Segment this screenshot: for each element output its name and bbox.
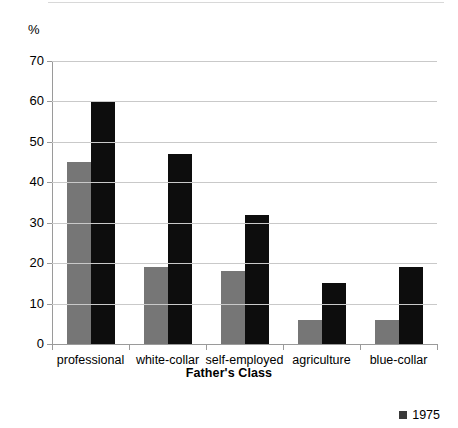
x-axis-tick <box>129 344 130 350</box>
gridline <box>52 61 437 62</box>
bar-chart: % Father's Class 1975 010203040506070pro… <box>0 0 458 428</box>
x-axis-tick <box>52 344 53 350</box>
y-axis-tick-label: 20 <box>14 255 44 270</box>
gridline <box>52 304 437 305</box>
y-axis-tick <box>47 304 52 305</box>
x-axis-tick <box>437 344 438 350</box>
gridline <box>52 344 437 345</box>
gridline <box>52 142 437 143</box>
legend-label-1975: 1975 <box>412 408 440 422</box>
gridline <box>52 223 437 224</box>
x-axis-tick <box>283 344 284 350</box>
bar <box>298 320 322 344</box>
y-axis-tick <box>47 223 52 224</box>
y-axis-tick-label: 30 <box>14 215 44 230</box>
y-axis-tick <box>47 61 52 62</box>
bar <box>399 267 423 344</box>
y-axis-tick <box>47 142 52 143</box>
x-axis-title: Father's Class <box>0 366 458 380</box>
y-axis-unit-label: % <box>28 22 40 37</box>
bar <box>322 283 346 344</box>
x-axis-tick <box>360 344 361 350</box>
gridline <box>52 182 437 183</box>
bars-layer <box>52 61 437 344</box>
y-axis-tick-label: 0 <box>14 336 44 351</box>
y-axis-tick-label: 60 <box>14 93 44 108</box>
x-axis-category-label: blue-collar <box>350 353 447 367</box>
legend-swatch-1975 <box>399 411 407 419</box>
gridline <box>52 101 437 102</box>
legend: 1975 <box>399 408 440 422</box>
y-axis-tick-label: 70 <box>14 53 44 68</box>
y-axis-tick-label: 10 <box>14 296 44 311</box>
x-axis-tick <box>206 344 207 350</box>
bar <box>144 267 168 344</box>
bar <box>221 271 245 344</box>
y-axis-tick <box>47 182 52 183</box>
y-axis-tick-label: 40 <box>14 174 44 189</box>
plot-area <box>52 61 437 344</box>
bar <box>375 320 399 344</box>
bar <box>67 162 91 344</box>
y-axis-tick-label: 50 <box>14 134 44 149</box>
bar <box>245 215 269 344</box>
gridline <box>52 263 437 264</box>
top-border-rule <box>48 2 444 3</box>
y-axis-tick <box>47 101 52 102</box>
y-axis-tick <box>47 263 52 264</box>
